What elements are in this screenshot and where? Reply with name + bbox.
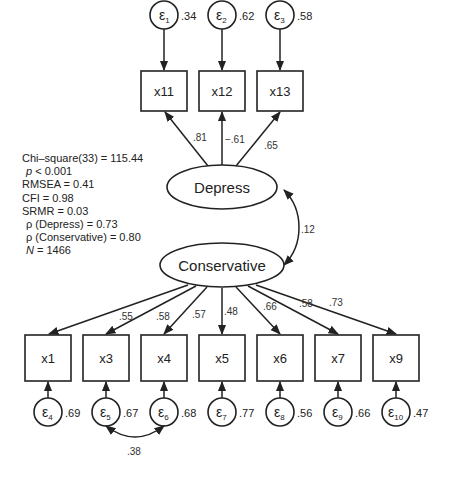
svg-text:x1: x1 bbox=[41, 351, 55, 366]
sample-size: N = 1466 bbox=[22, 244, 143, 257]
indicator-x9: x9 bbox=[373, 335, 419, 381]
cfi: CFI = 0.98 bbox=[22, 192, 143, 205]
loading-label: .58 bbox=[299, 298, 313, 309]
svg-text:ε8: ε8 bbox=[274, 404, 285, 422]
indicator-x7: x7 bbox=[315, 335, 361, 381]
svg-text:.12: .12 bbox=[301, 224, 315, 235]
error-variance: .56 bbox=[297, 407, 312, 419]
loading-label: .57 bbox=[192, 309, 206, 320]
error-e3: ε3 .58 bbox=[266, 1, 312, 70]
loading-label: .48 bbox=[224, 306, 238, 317]
loading-label: .81 bbox=[193, 132, 207, 143]
svg-text:x7: x7 bbox=[331, 351, 345, 366]
svg-text:x12: x12 bbox=[212, 84, 233, 99]
indicator-x1: x1 bbox=[25, 335, 71, 381]
svg-text:x11: x11 bbox=[154, 84, 174, 99]
rmsea: RMSEA = 0.41 bbox=[22, 178, 143, 191]
rho-depress: ρ (Depress) = 0.73 bbox=[22, 218, 143, 231]
svg-text:Conservative: Conservative bbox=[178, 257, 266, 274]
error-e5: ε5 .67 bbox=[92, 382, 138, 426]
svg-text:ε1: ε1 bbox=[159, 7, 170, 25]
conservative-loadings: .55 .58 .57 .48 .66 .58 .73 bbox=[49, 285, 396, 334]
indicator-x4: x4 bbox=[141, 335, 187, 381]
loading-label: −.61 bbox=[225, 134, 245, 145]
p-value: p < 0.001 bbox=[22, 165, 143, 178]
svg-text:Depress: Depress bbox=[194, 179, 250, 196]
error-e2: ε2 .62 bbox=[208, 1, 254, 70]
error-e1: ε1 .34 bbox=[150, 1, 196, 70]
chi-square: Chi–square(33) = 115.44 bbox=[22, 152, 143, 165]
svg-text:.38: .38 bbox=[127, 446, 141, 457]
svg-text:ε4: ε4 bbox=[42, 404, 53, 422]
error-variance: .77 bbox=[239, 407, 254, 419]
srmr: SRMR = 0.03 bbox=[22, 205, 143, 218]
error-variance: .34 bbox=[181, 10, 196, 22]
svg-text:x9: x9 bbox=[389, 351, 403, 366]
depress-loadings: .81 −.61 .65 bbox=[165, 112, 280, 166]
indicator-x13: x13 bbox=[257, 71, 303, 111]
latent-covariance: .12 bbox=[284, 190, 315, 265]
error-e10: ε10 .47 bbox=[382, 382, 428, 426]
indicator-x3: x3 bbox=[83, 335, 129, 381]
latent-depress: Depress bbox=[167, 165, 277, 209]
loading-label: .65 bbox=[264, 140, 278, 151]
error-e9: ε9 .66 bbox=[324, 382, 370, 426]
loading-label: .66 bbox=[263, 301, 277, 312]
svg-text:ε2: ε2 bbox=[216, 7, 227, 25]
svg-text:x3: x3 bbox=[99, 351, 113, 366]
error-variance: .62 bbox=[239, 10, 254, 22]
error-covariance: .38 bbox=[106, 426, 164, 457]
svg-text:ε9: ε9 bbox=[332, 404, 343, 422]
error-variance: .47 bbox=[413, 407, 428, 419]
error-variance: .68 bbox=[181, 407, 196, 419]
svg-text:ε6: ε6 bbox=[158, 404, 169, 422]
svg-text:x13: x13 bbox=[270, 84, 291, 99]
indicator-x5: x5 bbox=[199, 335, 245, 381]
error-variance: .67 bbox=[123, 407, 138, 419]
rho-conservative: ρ (Conservative) = 0.80 bbox=[22, 231, 143, 244]
svg-text:ε7: ε7 bbox=[216, 404, 227, 422]
fit-statistics: Chi–square(33) = 115.44 p < 0.001 RMSEA … bbox=[22, 152, 143, 258]
error-variance: .58 bbox=[297, 10, 312, 22]
loading-label: .73 bbox=[329, 297, 343, 308]
loading-label: .55 bbox=[119, 311, 133, 322]
svg-text:ε10: ε10 bbox=[388, 404, 404, 422]
error-e7: ε7 .77 bbox=[208, 382, 254, 426]
svg-text:x4: x4 bbox=[157, 351, 171, 366]
error-e4: ε4 .69 bbox=[34, 382, 80, 426]
svg-text:x5: x5 bbox=[215, 351, 229, 366]
loading-label: .58 bbox=[156, 311, 170, 322]
error-variance: .69 bbox=[65, 407, 80, 419]
svg-text:x6: x6 bbox=[273, 351, 287, 366]
error-variance: .66 bbox=[355, 407, 370, 419]
svg-text:ε3: ε3 bbox=[274, 7, 285, 25]
error-e8: ε8 .56 bbox=[266, 382, 312, 426]
error-e6: ε6 .68 bbox=[150, 382, 196, 426]
latent-conservative: Conservative bbox=[160, 243, 284, 287]
indicator-x12: x12 bbox=[199, 71, 245, 111]
indicator-x6: x6 bbox=[257, 335, 303, 381]
svg-text:ε5: ε5 bbox=[100, 404, 111, 422]
indicator-x11: x11 bbox=[141, 71, 187, 111]
